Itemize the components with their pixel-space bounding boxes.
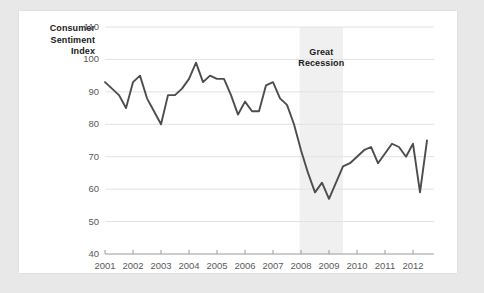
band-label-line-1: Great <box>309 47 333 57</box>
y-axis-title-line-2: Sentiment <box>51 35 95 45</box>
sentiment-line <box>105 63 427 199</box>
y-tick-label: 90 <box>73 87 99 97</box>
y-tick-label: 40 <box>73 249 99 259</box>
great-recession-label: Great Recession <box>280 47 363 69</box>
y-tick-label: 60 <box>73 184 99 194</box>
y-tick-label: 70 <box>73 152 99 162</box>
consumer-sentiment-chart: Consumer Sentiment Index Great Recession… <box>19 11 457 273</box>
y-tick-label: 110 <box>73 22 99 32</box>
y-tick-label: 80 <box>73 119 99 129</box>
y-tick-label: 100 <box>73 54 99 64</box>
band-label-line-2: Recession <box>298 58 344 68</box>
x-tick-label: 2012 <box>393 261 433 271</box>
chart-card: Consumer Sentiment Index Great Recession… <box>19 11 457 273</box>
y-tick-label: 50 <box>73 217 99 227</box>
